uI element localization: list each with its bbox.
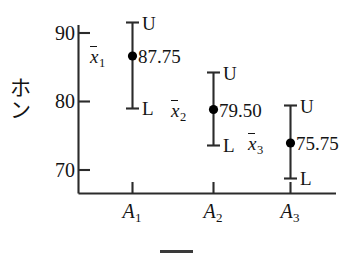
y-axis-title-char-ho: ホ (7, 77, 33, 99)
mean-value-A1: 87.75 (138, 47, 181, 66)
lower-cap-label-A1: L (142, 99, 154, 118)
x-tick-label-A2-subscript: 2 (216, 210, 223, 225)
lower-cap-label-A2: L (223, 136, 235, 155)
y-axis-title-char-n: ン (7, 99, 33, 121)
mean-marker-A3 (286, 138, 295, 147)
mean-symbol-A3: x3 (248, 134, 263, 156)
mean-marker-A2 (209, 105, 218, 114)
x-tick-label-A3-subscript: 3 (293, 210, 300, 225)
mean-symbol-A3-subscript: 3 (257, 143, 263, 157)
mean-symbol-A2-subscript: 2 (180, 110, 186, 124)
mean-value-A3: 75.75 (296, 134, 339, 153)
mean-symbol-A2: x2 (171, 101, 186, 123)
mean-value-A2: 79.50 (219, 101, 262, 120)
mean-symbol-A3-x: x (248, 134, 256, 153)
y-tick-label-70: 70 (41, 160, 75, 180)
upper-cap-label-A1: U (142, 14, 156, 33)
y-tick-label-80: 80 (41, 91, 75, 111)
mean-symbol-A2-x: x (171, 101, 179, 120)
x-tick-label-A3-letter: A (280, 200, 292, 222)
figure-container: ホ ン 90 80 70 A1 A2 A3 U L x1 87.75 U L x… (0, 0, 357, 253)
x-tick-label-A1-subscript: 1 (135, 210, 142, 225)
mean-symbol-A1-x: x (90, 47, 98, 66)
mean-marker-A1 (128, 51, 137, 60)
x-tick-label-A1: A1 (112, 201, 152, 224)
x-tick-label-A2: A2 (193, 201, 233, 224)
y-tick-label-90: 90 (41, 23, 75, 43)
mean-symbol-A1-subscript: 1 (99, 56, 105, 70)
x-tick-label-A1-letter: A (122, 200, 134, 222)
upper-cap-label-A2: U (223, 64, 237, 83)
x-tick-label-A3: A3 (270, 201, 310, 224)
lower-cap-label-A3: L (300, 169, 312, 188)
y-axis-title-vertical: ホ ン (7, 77, 33, 121)
mean-symbol-A1: x1 (90, 47, 105, 69)
upper-cap-label-A3: U (300, 97, 314, 116)
x-tick-label-A2-letter: A (203, 200, 215, 222)
